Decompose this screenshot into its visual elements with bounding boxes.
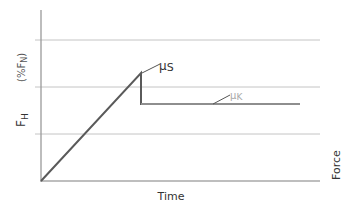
y-axis-unit: (%FN): [16, 53, 29, 82]
x-axis-label: Time: [157, 190, 185, 203]
force-curve: [41, 73, 300, 181]
y-axis-label: FH: [14, 113, 30, 127]
svg-text:(%FN): (%FN): [16, 53, 29, 82]
mu-s-leader: [142, 64, 160, 73]
friction-chart: μS μK FH (%FN) Time Force: [0, 0, 347, 213]
right-axis-label: Force: [330, 150, 343, 180]
mu-s-label: μS: [159, 59, 174, 74]
mu-k-leader: [213, 95, 230, 104]
svg-text:FH: FH: [14, 113, 30, 127]
svg-text:Force: Force: [330, 150, 343, 180]
mu-k-label: μK: [230, 90, 243, 102]
